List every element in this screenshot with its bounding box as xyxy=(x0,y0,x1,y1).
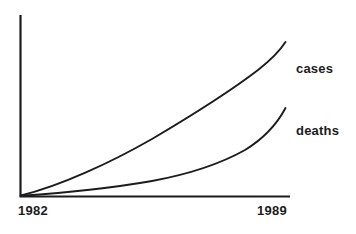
chart-plot-area xyxy=(0,0,356,234)
chart-figure: 1982 1989 cases deaths xyxy=(0,0,356,234)
x-axis-tick-label-end: 1989 xyxy=(257,203,287,218)
series-label-deaths: deaths xyxy=(296,123,339,138)
series-label-cases: cases xyxy=(296,61,333,76)
series-curve-cases xyxy=(21,42,286,196)
x-axis-tick-label-start: 1982 xyxy=(18,203,48,218)
